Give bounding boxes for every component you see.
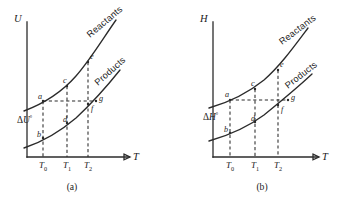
panel-b-tick-t0-sub: 0 <box>231 165 234 172</box>
panel-b-tick-label-t2: T2 <box>274 160 282 172</box>
panel-a-point-label-a: a <box>38 92 42 101</box>
panel-a-point-label-c: c <box>63 76 67 85</box>
panel-a: U T a b c d e f g Reactants Products <box>14 4 140 193</box>
panel-a-tick-t2-sub: 2 <box>89 165 92 172</box>
panel-a-tick-t0-sub: 0 <box>44 165 47 172</box>
panel-b-x-axis-label: T <box>322 151 329 162</box>
panel-b: H T a b c d e f g Reactants Products <box>199 13 329 193</box>
figure-container: U T a b c d e f g Reactants Products <box>0 0 361 198</box>
panel-b-y-axis-label: H <box>199 13 209 24</box>
panel-b-point-label-c: c <box>251 79 255 88</box>
panel-a-point-f-dot <box>87 103 89 105</box>
panel-b-delta-degree: ° <box>216 112 219 118</box>
panel-b-tick-t1-sub: 1 <box>256 165 259 172</box>
panel-a-delta-degree: ° <box>30 115 33 121</box>
panel-a-point-label-b: b <box>37 130 41 139</box>
panel-a-reactants-label: Reactants <box>85 4 125 40</box>
panel-b-tick-t2-sub: 2 <box>279 165 282 172</box>
panel-a-tick-label-t1: T1 <box>63 160 71 172</box>
panel-b-delta-annotation: ΔH° <box>203 112 219 122</box>
panel-a-x-axis-label: T <box>133 151 140 162</box>
panel-b-point-a-dot <box>229 99 231 101</box>
panel-b-tick-label-t0: T0 <box>226 160 234 172</box>
thermochemistry-figure: U T a b c d e f g Reactants Products <box>0 0 361 198</box>
panel-a-point-c-dot <box>66 85 68 87</box>
panel-b-point-label-f: f <box>281 105 285 114</box>
panel-b-tick-label-t1: T1 <box>251 160 259 172</box>
panel-b-point-label-b: b <box>224 125 228 134</box>
panel-b-point-label-g: g <box>291 93 295 102</box>
panel-a-y-axis-label: U <box>14 13 23 24</box>
panel-a-point-a-dot <box>42 100 44 102</box>
panel-a-point-label-f: f <box>91 104 95 113</box>
panel-b-products-label: Products <box>283 59 319 90</box>
panel-a-point-b-dot <box>42 137 44 139</box>
panel-b-point-b-dot <box>229 132 231 134</box>
panel-b-point-label-a: a <box>225 90 229 99</box>
panel-a-tick-label-t0: T0 <box>39 160 47 172</box>
panel-b-point-g-dot <box>287 99 289 101</box>
panel-b-caption: (b) <box>256 181 267 193</box>
panel-a-point-label-g: g <box>99 94 103 103</box>
panel-b-point-label-e: e <box>280 60 284 69</box>
panel-b-point-f-dot <box>277 104 279 106</box>
panel-b-point-e-dot <box>277 69 279 71</box>
panel-a-caption: (a) <box>67 181 78 193</box>
panel-a-delta-annotation: ΔU° <box>17 115 33 125</box>
panel-a-point-g-dot <box>95 100 97 102</box>
panel-a-point-e-dot <box>87 61 89 63</box>
panel-b-point-c-dot <box>254 88 256 90</box>
panel-a-tick-t1-sub: 1 <box>68 165 71 172</box>
panel-a-tick-label-t2: T2 <box>84 160 92 172</box>
panel-a-point-label-e: e <box>90 52 94 61</box>
